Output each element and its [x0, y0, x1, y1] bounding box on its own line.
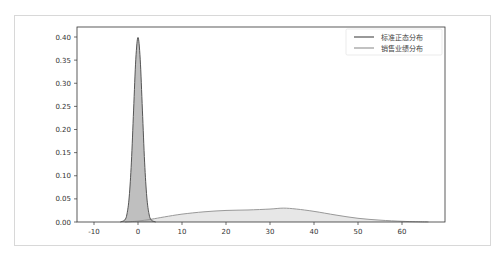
x-axis: -100102030405060	[88, 222, 406, 236]
x-tick-label: 60	[398, 228, 407, 236]
y-tick-label: 0.35	[55, 57, 71, 65]
y-tick-label: 0.30	[55, 80, 71, 88]
series-area	[120, 37, 155, 222]
x-tick-label: 0	[136, 228, 140, 236]
x-tick-label: 10	[178, 228, 187, 236]
x-tick-label: 40	[310, 228, 319, 236]
y-tick-label: 0.15	[55, 149, 71, 157]
y-tick-label: 0.10	[55, 172, 71, 180]
x-tick-label: 50	[354, 228, 363, 236]
kde-chart: 0.000.050.100.150.200.250.300.350.40 -10…	[0, 0, 501, 260]
series-lines	[120, 37, 428, 222]
y-tick-label: 0.20	[55, 126, 71, 134]
legend-label: 销售业绩分布	[381, 44, 423, 53]
series-fills	[120, 37, 428, 222]
x-tick-label: -10	[88, 228, 99, 236]
x-tick-label: 30	[266, 228, 275, 236]
legend-label: 标准正态分布	[381, 33, 423, 42]
y-axis: 0.000.050.100.150.200.250.300.350.40	[55, 34, 77, 227]
y-tick-label: 0.40	[55, 34, 71, 42]
y-tick-label: 0.05	[55, 195, 71, 203]
y-tick-label: 0.25	[55, 103, 71, 111]
x-tick-label: 20	[222, 228, 231, 236]
legend: 标准正态分布 销售业绩分布	[346, 29, 442, 55]
y-tick-label: 0.00	[55, 219, 71, 227]
